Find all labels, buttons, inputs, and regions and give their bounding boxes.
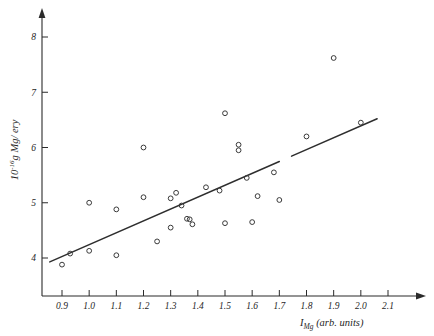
data-point xyxy=(114,207,119,212)
data-point xyxy=(236,142,241,147)
data-point xyxy=(223,221,228,226)
scatter-plot: 45678 0.91.01.11.21.31.41.51.61.71.81.92… xyxy=(0,0,434,336)
data-point xyxy=(174,190,179,195)
data-point xyxy=(217,188,222,193)
x-tick-label: 1.9 xyxy=(328,301,340,311)
data-point xyxy=(250,220,255,225)
x-tick-label: 0.9 xyxy=(56,301,68,311)
figure-container: 45678 0.91.01.11.21.31.41.51.61.71.81.92… xyxy=(0,0,434,336)
x-axis-ticks: 0.91.01.11.21.31.41.51.61.71.81.92.02.1 xyxy=(56,290,394,311)
x-tick-label: 1.7 xyxy=(273,301,286,311)
data-point xyxy=(304,134,309,139)
data-point xyxy=(223,111,228,116)
data-point xyxy=(204,185,209,190)
y-tick-label: 7 xyxy=(31,88,37,98)
data-point xyxy=(331,56,336,61)
y-tick-label: 5 xyxy=(31,198,36,208)
x-axis-title-subscript: Mg xyxy=(303,322,314,331)
data-points xyxy=(60,56,364,267)
x-tick-label: 1.8 xyxy=(301,301,313,311)
x-tick-label: 1.1 xyxy=(110,301,122,311)
x-axis-title-units: (arb. units) xyxy=(314,317,364,329)
svg-text:10-16g Mg/ ery: 10-16g Mg/ ery xyxy=(8,119,20,180)
data-point xyxy=(358,120,363,125)
y-tick-label: 4 xyxy=(31,253,36,263)
x-tick-label: 1.4 xyxy=(192,301,204,311)
x-tick-label: 1.5 xyxy=(219,301,231,311)
x-axis-title: IMg (arb. units) xyxy=(299,317,364,331)
data-point xyxy=(141,195,146,200)
data-point xyxy=(255,194,260,199)
x-tick-label: 1.6 xyxy=(246,301,258,311)
data-point xyxy=(236,148,241,153)
x-tick-label: 1.2 xyxy=(138,301,150,311)
svg-text:IMg (arb. units): IMg (arb. units) xyxy=(299,317,364,331)
data-point xyxy=(87,200,92,205)
y-tick-label: 8 xyxy=(31,32,36,42)
y-tick-label: 6 xyxy=(31,143,36,153)
x-axis-arrowhead xyxy=(416,293,426,300)
data-point xyxy=(87,248,92,253)
x-tick-label: 1.3 xyxy=(165,301,177,311)
data-point xyxy=(114,253,119,258)
y-axis-ticks: 45678 xyxy=(31,32,48,263)
data-point xyxy=(277,198,282,203)
data-point xyxy=(190,222,195,227)
data-point xyxy=(60,262,65,267)
data-point xyxy=(141,145,146,150)
axes xyxy=(39,8,426,299)
y-axis-title-rest: g Mg/ ery xyxy=(9,119,20,160)
data-point xyxy=(168,196,173,201)
x-tick-label: 1.0 xyxy=(83,301,95,311)
y-axis-arrowhead xyxy=(39,8,46,18)
regression-line xyxy=(50,119,377,262)
x-tick-label: 2.1 xyxy=(382,301,394,311)
data-point xyxy=(155,239,160,244)
y-axis-title: 10-16g Mg/ ery xyxy=(8,119,20,180)
data-point xyxy=(272,170,277,175)
data-point xyxy=(168,225,173,230)
x-tick-label: 2.0 xyxy=(355,301,367,311)
